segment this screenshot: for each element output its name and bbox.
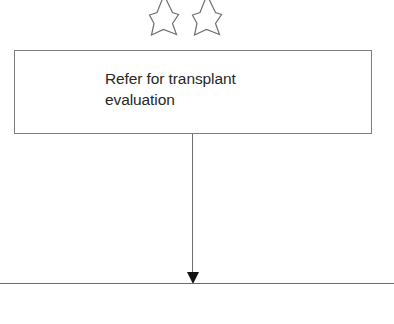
connector-line: [192, 134, 193, 276]
star-marker-2-icon: [193, 0, 222, 35]
process-box-label: Refer for transplant evaluation: [105, 68, 355, 110]
process-box[interactable]: Refer for transplant evaluation: [14, 50, 372, 134]
clipped-footer-text: [0, 316, 394, 324]
baseline-rule: [0, 283, 394, 284]
figure-canvas: Refer for transplant evaluation: [0, 0, 394, 324]
star-marker-1-icon: [150, 0, 179, 35]
